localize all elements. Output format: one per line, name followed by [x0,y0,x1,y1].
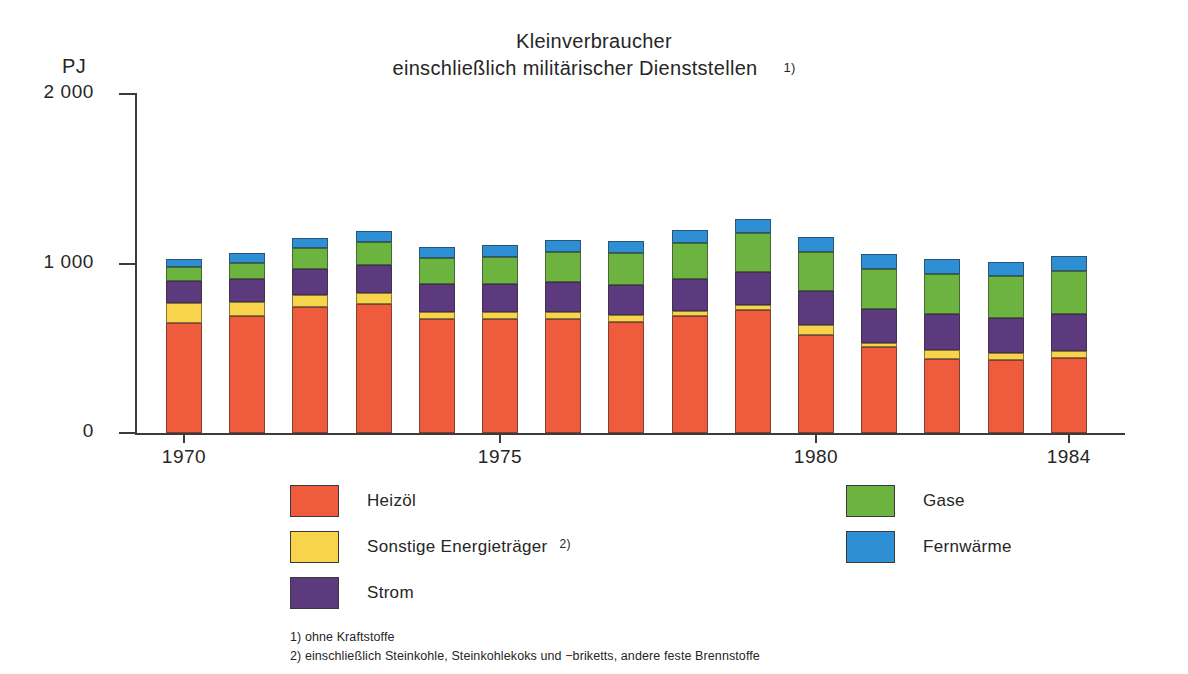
bar-segment-strom [735,272,771,305]
bar-segment-fernwärme [798,237,834,251]
bar-segment-heizöl [924,359,960,433]
x-axis-tick [183,434,185,443]
bar-segment-heizöl [229,316,265,433]
bar-segment-fernwärme [292,238,328,248]
bar-1984 [1051,0,1087,433]
legend-item-heizöl[interactable]: Heizöl [290,478,571,524]
legend-swatch-icon [290,485,339,517]
legend-footnote-marker: 2) [560,537,571,551]
bar-segment-gase [608,253,644,284]
bars-layer [0,0,1188,433]
bar-segment-gase [924,274,960,315]
legend-item-fernwärme[interactable]: Fernwärme [846,524,1012,570]
bar-segment-gase [356,242,392,265]
bar-segment-strom [292,269,328,295]
bar-segment-sonstige-energieträger [988,353,1024,360]
bar-segment-strom [988,318,1024,354]
bar-1973 [356,0,392,433]
legend-label: Heizöl [367,491,416,511]
bar-segment-sonstige-energieträger [545,312,581,319]
bar-segment-sonstige-energieträger [292,295,328,307]
bar-segment-gase [166,267,202,281]
footnote-line: 2) einschließlich Steinkohle, Steinkohle… [290,647,760,666]
bar-1970 [166,0,202,433]
legend-label: Sonstige Energieträger2) [367,537,571,557]
legend-column-left: HeizölSonstige Energieträger2)Strom [290,478,571,616]
bar-1977 [608,0,644,433]
bar-1971 [229,0,265,433]
legend-column-right: GaseFernwärme [846,478,1012,570]
bar-segment-heizöl [166,323,202,433]
bar-segment-strom [861,309,897,343]
bar-segment-fernwärme [482,245,518,257]
legend-swatch-icon [290,531,339,563]
bar-segment-fernwärme [608,241,644,254]
bar-segment-gase [292,248,328,268]
bar-segment-heizöl [608,322,644,433]
bar-segment-fernwärme [229,253,265,262]
bar-segment-gase [482,257,518,284]
bar-segment-fernwärme [1051,256,1087,271]
chart-canvas: Kleinverbraucher einschließlich militäri… [0,0,1188,674]
bar-segment-strom [924,314,960,350]
bar-segment-gase [1051,271,1087,314]
bar-segment-heizöl [672,316,708,433]
bar-1983 [988,0,1024,433]
legend-item-gase[interactable]: Gase [846,478,1012,524]
legend-swatch-icon [846,531,895,563]
bar-segment-heizöl [798,335,834,433]
legend-label: Gase [923,491,965,511]
bar-segment-gase [545,252,581,282]
bar-1972 [292,0,328,433]
bar-segment-gase [798,252,834,291]
x-axis-tick-label: 1984 [1047,446,1091,468]
bar-segment-fernwärme [545,240,581,253]
bar-segment-sonstige-energieträger [419,312,455,320]
bar-segment-strom [798,291,834,326]
bar-segment-fernwärme [672,230,708,244]
bar-segment-sonstige-energieträger [672,311,708,316]
bar-segment-strom [672,279,708,311]
bar-segment-heizöl [356,304,392,433]
bar-segment-gase [672,243,708,279]
bar-1974 [419,0,455,433]
bar-segment-fernwärme [419,247,455,259]
bar-segment-fernwärme [735,219,771,233]
bar-segment-sonstige-energieträger [924,350,960,359]
legend-swatch-icon [290,577,339,609]
bar-segment-heizöl [419,319,455,433]
bar-segment-gase [419,258,455,283]
legend-item-sonstige-energieträger[interactable]: Sonstige Energieträger2) [290,524,571,570]
bar-segment-gase [988,276,1024,318]
bar-segment-strom [356,265,392,293]
legend-label: Strom [367,583,414,603]
bar-1975 [482,0,518,433]
bar-segment-heizöl [482,319,518,433]
bar-segment-fernwärme [924,259,960,273]
bar-segment-strom [545,282,581,312]
bar-segment-sonstige-energieträger [608,315,644,322]
legend-item-strom[interactable]: Strom [290,570,571,616]
bar-segment-sonstige-energieträger [1051,351,1087,359]
bar-segment-heizöl [1051,358,1087,433]
bar-1981 [861,0,897,433]
bar-segment-gase [861,269,897,310]
bar-segment-strom [166,281,202,303]
bar-segment-sonstige-energieträger [229,302,265,316]
bar-segment-strom [229,279,265,302]
x-axis-tick-label: 1975 [478,446,522,468]
chart-footnotes: 1) ohne Kraftstoffe2) einschließlich Ste… [290,628,760,667]
legend-swatch-icon [846,485,895,517]
x-axis-tick-label: 1970 [162,446,206,468]
bar-segment-sonstige-energieträger [356,293,392,304]
x-axis-tick-label: 1980 [794,446,838,468]
footnote-line: 1) ohne Kraftstoffe [290,628,760,647]
bar-segment-heizöl [861,347,897,433]
bar-segment-heizöl [292,307,328,433]
x-axis-tick [1068,434,1070,443]
bar-1976 [545,0,581,433]
bar-segment-fernwärme [861,254,897,268]
bar-segment-fernwärme [988,262,1024,276]
bar-1982 [924,0,960,433]
bar-segment-heizöl [545,319,581,433]
